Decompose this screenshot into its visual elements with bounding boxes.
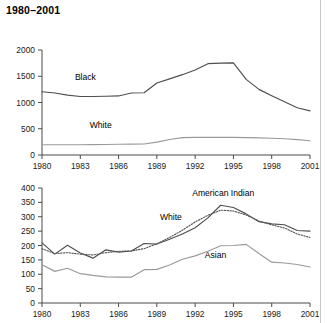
x-tick-label: 1992: [186, 309, 205, 319]
y-tick-label: 2000: [16, 45, 35, 55]
x-tick-label: 1989: [148, 161, 167, 171]
series-label-asian: Asian: [205, 250, 227, 260]
x-tick-label: 1983: [71, 161, 90, 171]
x-tick-label: 2001: [301, 161, 320, 171]
chart-bottom-axes: [42, 188, 310, 303]
y-tick-label: 150: [21, 255, 35, 265]
y-tick-group: 050100150200250300350400: [21, 183, 42, 308]
y-tick-label: 1500: [16, 71, 35, 81]
series-line-black: [42, 63, 310, 111]
series-label-group: BlackWhite: [75, 72, 112, 130]
page-title: 1980–2001: [6, 4, 60, 16]
series-label-black: Black: [75, 72, 97, 82]
x-tick-label: 1986: [109, 309, 128, 319]
y-tick-label: 250: [21, 226, 35, 236]
y-tick-label: 350: [21, 197, 35, 207]
x-tick-group: 19801983198619891992199519982001: [33, 303, 320, 319]
x-tick-label: 1986: [109, 161, 128, 171]
y-tick-label: 300: [21, 212, 35, 222]
chart-page: 1980–2001 0500100015002000 1980198319861…: [0, 0, 328, 323]
y-tick-label: 500: [21, 124, 35, 134]
y-tick-label: 0: [30, 150, 35, 160]
y-tick-label: 1000: [16, 98, 35, 108]
x-tick-label: 1980: [33, 161, 52, 171]
x-tick-label: 1998: [262, 161, 281, 171]
x-tick-label: 1989: [148, 309, 167, 319]
series-line-white: [42, 137, 310, 144]
y-tick-label: 100: [21, 269, 35, 279]
series-label-american-indian: American Indian: [192, 188, 254, 198]
chart-bottom-svg: 050100150200250300350400 198019831986198…: [0, 178, 328, 323]
x-tick-label: 2001: [301, 309, 320, 319]
chart-top-axes: [42, 50, 310, 155]
y-tick-label: 50: [26, 284, 36, 294]
x-tick-label: 1998: [262, 309, 281, 319]
y-tick-label: 0: [30, 298, 35, 308]
y-tick-group: 0500100015002000: [16, 45, 42, 160]
chart-top-svg: 0500100015002000 19801983198619891992199…: [0, 38, 328, 175]
x-tick-label: 1995: [224, 309, 243, 319]
series-label-white: White: [90, 120, 112, 130]
series-line-asian: [42, 244, 310, 277]
y-tick-label: 400: [21, 183, 35, 193]
chart-top-panel: 0500100015002000 19801983198619891992199…: [0, 38, 328, 175]
x-tick-label: 1983: [71, 309, 90, 319]
x-tick-label: 1992: [186, 161, 205, 171]
chart-bottom-panel: 050100150200250300350400 198019831986198…: [0, 178, 328, 323]
x-tick-group: 19801983198619891992199519982001: [33, 155, 320, 171]
x-tick-label: 1980: [33, 309, 52, 319]
series-label-white: White: [160, 212, 182, 222]
series-label-group: American IndianWhiteAsian: [160, 188, 255, 260]
x-tick-label: 1995: [224, 161, 243, 171]
y-tick-label: 200: [21, 241, 35, 251]
